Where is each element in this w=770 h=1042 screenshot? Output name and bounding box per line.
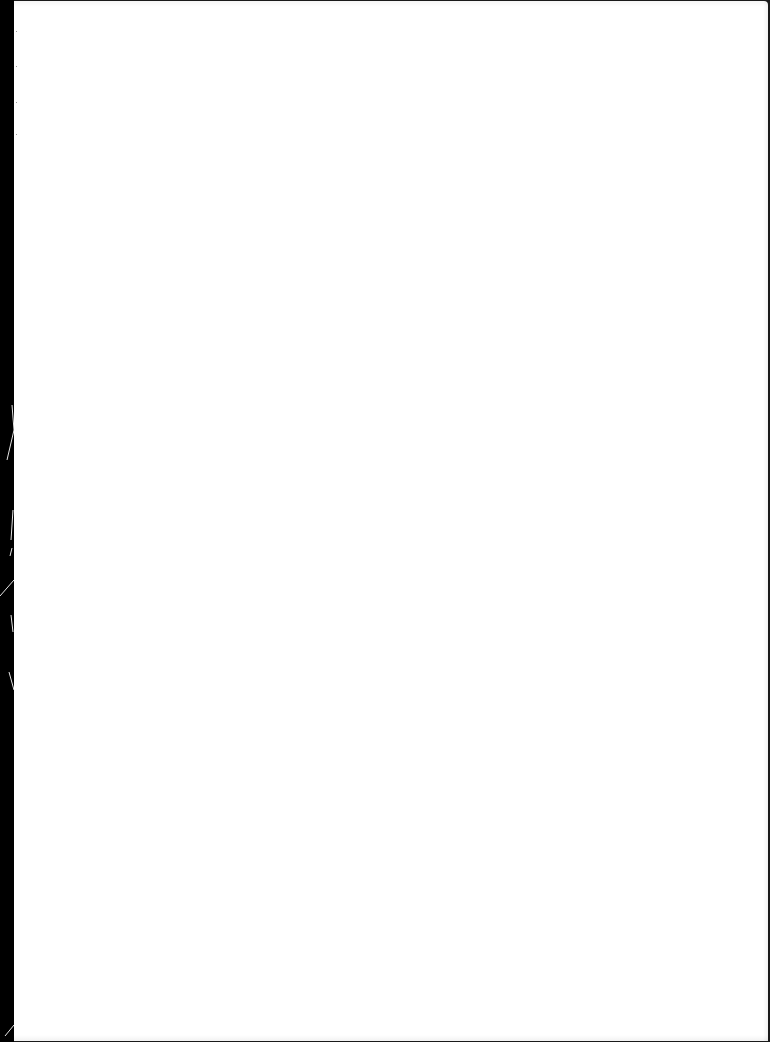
scan-specks (14, 0, 26, 200)
blank-page (14, 1, 768, 1041)
scanned-document (0, 0, 770, 1042)
